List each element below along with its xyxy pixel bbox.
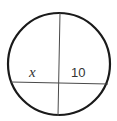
segment-label-10: 10	[71, 65, 85, 80]
chord-diagram: x 10	[0, 0, 117, 121]
vertical-chord	[58, 13, 60, 116]
horizontal-chord	[11, 82, 108, 84]
segment-label-x: x	[28, 64, 36, 80]
